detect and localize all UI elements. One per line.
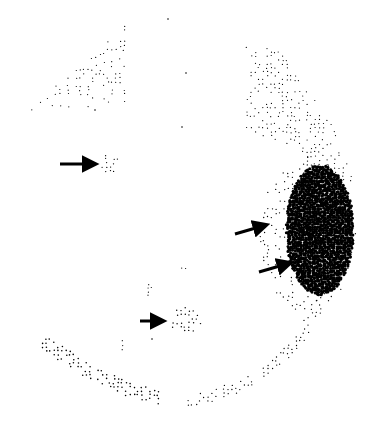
arrow-blind-spot-upper-icon <box>235 225 266 234</box>
superior-temporal-depression <box>246 47 352 181</box>
inferior-temporal-arc <box>187 300 321 406</box>
scatter-6 <box>122 340 124 350</box>
arrow-layer <box>60 164 290 321</box>
small-paracentral-scotoma <box>101 155 118 172</box>
inferior-paracentral-scotoma <box>172 307 201 332</box>
visual-field-plot <box>0 0 378 427</box>
blind-spot-dense <box>285 165 355 296</box>
superior-nasal-depression <box>31 26 125 111</box>
inferior-nasal-arc <box>42 338 160 404</box>
dot-density-layer <box>31 18 356 406</box>
scatter-2 <box>181 268 186 270</box>
arrow-blind-spot-lower-icon <box>259 263 290 272</box>
scatter-4 <box>147 284 152 296</box>
